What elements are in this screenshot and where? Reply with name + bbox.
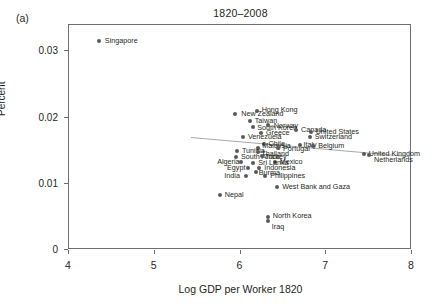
y-tick-label: 0.02 (0, 111, 58, 122)
data-point (241, 135, 245, 139)
x-tick-mark (240, 250, 241, 254)
data-point-label: Netherlands (374, 156, 413, 163)
data-point (263, 174, 267, 178)
x-tick-mark (411, 250, 412, 254)
chart-title: 1820–2008 (0, 7, 435, 19)
data-point (362, 152, 366, 156)
data-point (233, 112, 237, 116)
y-tick-label: 0.03 (0, 45, 58, 56)
data-point-label: Belgium (318, 142, 344, 149)
data-point (275, 185, 279, 189)
y-tick-mark (64, 50, 68, 51)
x-tick-label: 7 (305, 259, 345, 271)
data-point (248, 119, 252, 123)
data-point-label: Nepal (225, 191, 244, 198)
y-tick-label: 0 (0, 244, 58, 255)
data-point (218, 193, 222, 197)
data-point-label: Iraq (272, 223, 284, 230)
x-tick-mark (325, 250, 326, 254)
data-point (251, 161, 255, 165)
data-point-label: Singapore (105, 37, 138, 44)
data-point (246, 166, 250, 170)
data-point (251, 125, 255, 129)
data-point-label: Egypt (227, 164, 245, 171)
x-axis-label: Log GDP per Worker 1820 (0, 283, 435, 295)
x-tick-label: 8 (391, 259, 431, 271)
data-point-label: North Korea (273, 212, 312, 219)
data-point-label: Hong Kong (262, 106, 298, 113)
x-tick-label: 6 (220, 259, 260, 271)
plot-area (68, 24, 411, 249)
data-point (294, 128, 298, 132)
data-point (309, 130, 313, 134)
data-point (308, 135, 312, 139)
y-tick-label: 0.01 (0, 177, 58, 188)
scatter-plot-figure: (a) 1820–2008 Percent Log GDP per Worker… (0, 0, 435, 306)
data-point-label: India (224, 172, 240, 179)
x-tick-mark (68, 250, 69, 254)
data-point (266, 219, 270, 223)
data-point (311, 144, 315, 148)
data-point (97, 39, 101, 43)
y-tick-mark (64, 183, 68, 184)
x-tick-label: 4 (48, 259, 88, 271)
x-tick-mark (154, 250, 155, 254)
data-point-label: Philippines (270, 172, 305, 179)
y-tick-mark (64, 117, 68, 118)
x-tick-label: 5 (134, 259, 174, 271)
data-point-label: West Bank and Gaza (282, 183, 350, 190)
data-point-label: Switzerland (315, 133, 352, 140)
data-point (367, 153, 371, 157)
data-point (254, 170, 258, 174)
data-point (255, 109, 259, 113)
data-point (235, 149, 239, 153)
data-point (244, 174, 248, 178)
